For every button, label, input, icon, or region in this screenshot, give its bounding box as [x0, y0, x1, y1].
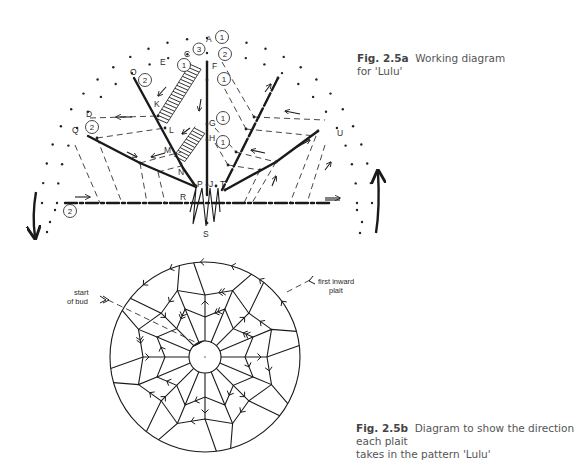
annotation-of-bud: of bud	[67, 297, 88, 306]
arc-dot	[329, 92, 331, 94]
circled-number-near-h: 1	[217, 136, 230, 149]
caption-fig-2-5b: Fig. 2.5b Diagram to show the direction …	[356, 422, 582, 461]
arc-dot	[283, 56, 285, 58]
arc-dot	[129, 56, 131, 58]
arc-dot	[46, 162, 48, 164]
svg-text:2: 2	[143, 76, 148, 85]
arc-dot	[360, 143, 362, 145]
point-label-t: T	[220, 179, 225, 189]
arc-dot	[370, 182, 372, 184]
arc-dot	[342, 108, 344, 110]
arc-dot	[281, 72, 283, 74]
web-spoke	[221, 346, 299, 357]
arc-dot	[54, 209, 56, 211]
svg-text:1: 1	[221, 138, 226, 147]
circled-number-near-o: 2	[139, 74, 152, 87]
arc-dot	[100, 96, 102, 98]
arc-dot	[361, 221, 363, 223]
circled-number-near-a: 1	[216, 31, 229, 44]
arc-dot	[245, 42, 247, 44]
point-label-f: F	[212, 61, 217, 71]
arc-dot	[263, 63, 265, 65]
point-label-n: N	[178, 167, 184, 177]
caption-fig-2-5a: Fig. 2.5a Working diagram for 'Lulu'	[357, 52, 505, 78]
point-label-l: L	[169, 125, 174, 135]
arc-dot	[148, 63, 150, 65]
circled-number-below-f: 1	[218, 73, 231, 86]
svg-text:2: 2	[68, 207, 73, 216]
point-label-g: G	[209, 118, 216, 128]
point-label-o: O	[130, 67, 137, 77]
annotation-start: start	[74, 288, 90, 297]
circled-number-near-g: 1	[217, 112, 230, 125]
hub-dot	[204, 356, 205, 357]
arc-dot	[356, 209, 358, 211]
first-inward-arrow-icon	[309, 276, 315, 284]
arc-dot	[325, 111, 327, 113]
web-spoke	[194, 263, 205, 341]
arc-dot	[41, 202, 43, 204]
arc-dot	[166, 42, 168, 44]
arc-dot	[352, 125, 354, 127]
arc-dot	[186, 38, 188, 40]
arc-dot	[49, 221, 51, 223]
point-label-e: E	[160, 57, 166, 67]
svg-text:1: 1	[221, 114, 226, 123]
circled-number-near-e: 1	[178, 59, 191, 72]
arc-dot	[351, 163, 353, 165]
arc-dot	[67, 144, 69, 146]
arc-dot	[359, 232, 361, 234]
rotation-arrow-left	[34, 192, 36, 237]
arc-dot	[344, 144, 346, 146]
svg-text:3: 3	[197, 45, 202, 54]
web-spoke	[114, 363, 191, 385]
caption-fig-2-5a-text-2: for 'Lulu'	[357, 65, 402, 77]
point-label-s: S	[203, 229, 209, 239]
start-of-bud-arrow-icon	[100, 296, 109, 303]
svg-text:1: 1	[222, 75, 227, 84]
point-label-u: U	[337, 128, 343, 138]
point-label-j: J	[209, 179, 213, 189]
point-label-a: A	[206, 34, 212, 44]
annotation-first-inward: first inward	[318, 277, 354, 286]
first-inward-plait-pointer	[285, 280, 310, 293]
arc-dot	[371, 202, 373, 204]
arc-dot	[61, 163, 63, 165]
point-label-r: R	[180, 192, 186, 202]
caption-fig-2-5a-text: Working diagram	[415, 52, 505, 64]
point-label-m: M	[164, 145, 171, 155]
caption-fig-2-5a-label: Fig. 2.5a	[357, 52, 409, 64]
circled-number-bottom-left: 2	[64, 205, 77, 218]
arc-dot	[297, 83, 299, 85]
rotation-arrow-right	[376, 172, 379, 233]
caption-fig-2-5b-label: Fig. 2.5b	[356, 422, 408, 434]
arc-dot	[70, 108, 72, 110]
circled-number-near-c: 3	[193, 43, 205, 55]
arc-dot	[300, 66, 302, 68]
web-spoke	[220, 329, 297, 351]
point-label-p: P	[197, 179, 203, 189]
arc-dot	[57, 182, 59, 184]
arc-dot	[82, 92, 84, 94]
arc-dot	[366, 162, 368, 164]
arc-dot	[356, 202, 358, 204]
arc-dot	[60, 125, 62, 127]
point-label-d: D	[86, 109, 92, 119]
plait-direction-diagram: start of bud first inward plait	[67, 258, 354, 452]
web-spoke	[211, 372, 233, 449]
arc-dot	[315, 78, 317, 80]
web-spoke	[177, 266, 199, 343]
point-label-k: K	[154, 99, 160, 109]
point-label-q: Q	[72, 125, 79, 135]
arc-dot	[42, 182, 44, 184]
arc-dot	[52, 143, 54, 145]
arc-dot	[46, 231, 48, 233]
web-spoke	[111, 357, 189, 368]
arc-dot	[56, 202, 58, 204]
arc-dot	[112, 66, 114, 68]
arc-dot	[167, 57, 169, 59]
arc-dot	[115, 83, 117, 85]
svg-text:1: 1	[220, 33, 225, 42]
svg-text:2: 2	[223, 50, 228, 59]
arc-dot	[245, 57, 247, 59]
